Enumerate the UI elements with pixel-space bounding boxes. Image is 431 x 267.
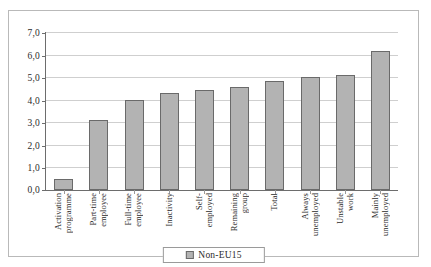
x-axis-label-always-unemployed: Alwaysunemployed: [300, 193, 319, 236]
bar-slot: [328, 32, 363, 190]
x-axis-label-line: employee: [98, 193, 107, 227]
bar-slot: [222, 32, 257, 190]
bar-mainly-unemployed[interactable]: [371, 51, 390, 190]
x-label-slot: Alwaysunemployed: [292, 193, 327, 251]
x-label-slot: Unstablework: [327, 193, 362, 251]
x-axis-label-line: unemployed: [310, 193, 319, 236]
x-axis-label-remaining-group: Remaininggroup: [230, 193, 249, 231]
x-axis-label-total: Total: [270, 193, 279, 211]
x-axis-label-line: employee: [134, 193, 143, 227]
bar-self-employed[interactable]: [195, 90, 214, 190]
bar-slot: [363, 32, 398, 190]
x-label-slot: Inactivity: [151, 193, 186, 251]
x-axis-label-line: group: [240, 193, 249, 213]
x-axis-label-activation-programme: Activationprogramme: [53, 193, 72, 233]
x-axis-label-line: unemployed: [381, 193, 390, 236]
x-axis-label-line: Activation: [53, 193, 62, 230]
y-axis-tick-label: 1,0: [28, 163, 40, 173]
x-axis-label-line: Always: [300, 193, 309, 220]
bar-slot: [257, 32, 292, 190]
x-axis-label-line: work: [346, 193, 355, 211]
x-axis-label-line: Inactivity: [164, 193, 173, 227]
x-axis-label-unstable-work: Unstablework: [336, 193, 355, 224]
y-axis-tick-label: 5,0: [28, 73, 40, 83]
x-axis-label-line: Part-time: [88, 193, 97, 226]
x-label-slot: Mainlyunemployed: [363, 193, 398, 251]
bar-always-unemployed[interactable]: [301, 77, 320, 190]
bar-unstable-work[interactable]: [336, 75, 355, 190]
legend-swatch-non-eu15: [185, 251, 193, 259]
bar-part-time-employee[interactable]: [89, 120, 108, 190]
x-axis-label-line: Self-: [194, 193, 203, 210]
bar-slot: [46, 32, 81, 190]
y-tick-mark: [42, 190, 46, 191]
y-axis-tick-label: 4,0: [28, 96, 40, 106]
bar-full-time-employee[interactable]: [125, 100, 144, 190]
x-axis-label-line: Full-time: [124, 193, 133, 226]
x-axis-label-inactivity: Inactivity: [164, 193, 173, 227]
bar-remaining-group[interactable]: [230, 87, 249, 190]
y-axis-tick-label: 7,0: [28, 28, 40, 38]
x-axis-label-line: employed: [204, 193, 213, 227]
legend-label-non-eu15: Non-EU15: [198, 250, 241, 260]
bar-slot: [187, 32, 222, 190]
bar-inactivity[interactable]: [160, 93, 179, 190]
x-label-slot: Total: [257, 193, 292, 251]
x-axis-label-part-time-employee: Part-timeemployee: [88, 193, 107, 227]
x-label-slot: Activationprogramme: [45, 193, 80, 251]
x-axis-label-full-time-employee: Full-timeemployee: [124, 193, 143, 227]
x-label-slot: Self-employed: [186, 193, 221, 251]
x-axis-label-line: programme: [63, 193, 72, 233]
x-label-slot: Part-timeemployee: [80, 193, 115, 251]
y-axis-tick-label: 0,0: [28, 185, 40, 195]
bar-total[interactable]: [265, 81, 284, 190]
bar-slot: [116, 32, 151, 190]
bar-activation-programme[interactable]: [54, 179, 73, 190]
chart-legend: Non-EU15: [162, 247, 264, 263]
y-axis-tick-label: 2,0: [28, 141, 40, 151]
x-label-slot: Full-timeemployee: [116, 193, 151, 251]
bars-group: [46, 32, 398, 190]
y-axis-tick-label: 6,0: [28, 51, 40, 61]
x-axis-label-line: Remaining: [230, 193, 239, 231]
x-axis-label-line: Mainly: [371, 193, 380, 218]
x-axis-label-line: Unstable: [336, 193, 345, 224]
bar-slot: [152, 32, 187, 190]
x-label-slot: Remaininggroup: [221, 193, 256, 251]
y-axis-tick-label: 3,0: [28, 118, 40, 128]
x-axis-label-line: Total: [270, 193, 279, 211]
plot-area: 7,06,05,04,03,02,01,00,0: [45, 32, 398, 191]
bar-slot: [292, 32, 327, 190]
chart-frame: 7,06,05,04,03,02,01,00,0 Activationprogr…: [8, 10, 419, 257]
x-axis-label-self-employed: Self-employed: [194, 193, 213, 227]
x-axis-labels: ActivationprogrammePart-timeemployeeFull…: [45, 193, 398, 251]
x-axis-label-mainly-unemployed: Mainlyunemployed: [371, 193, 390, 236]
bar-slot: [81, 32, 116, 190]
